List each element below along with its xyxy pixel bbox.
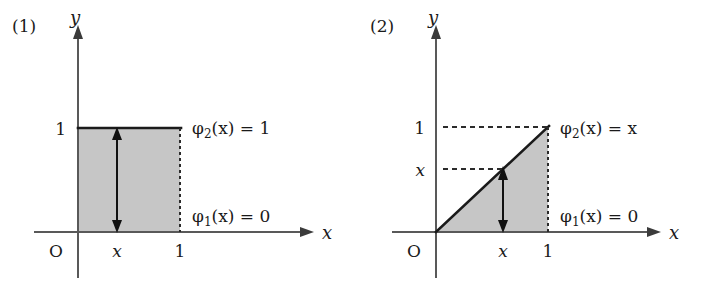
panel-2-lower-curve-label: φ1(x) = 0: [560, 206, 638, 229]
panel-2-lower-phi: φ: [560, 206, 572, 226]
panel-2-upper-phi-subscript: 2: [572, 127, 580, 141]
panel-1-origin-label: O: [49, 241, 63, 261]
panel-1-x-axis-label: x: [322, 222, 332, 243]
panel-1-y-axis-label: y: [69, 7, 81, 28]
panel-2-x-axis-label: x: [669, 222, 679, 243]
panel-1-x-tick-1: 1: [175, 241, 186, 261]
panel-1-y-tick-1: 1: [55, 119, 66, 139]
panel-1-lower-phi-subscript: 1: [204, 215, 212, 229]
panel-1-upper-curve-label: φ2(x) = 1: [192, 118, 270, 141]
panel-2-upper-phi-rest: (x) = x: [580, 118, 638, 138]
panel-2: (2) y x O 1 x x 1 φ2(x) = x φ1(x) = 0: [370, 7, 679, 278]
panel-2-y-tick-1: 1: [414, 118, 425, 138]
panel-1-x-axis-arrowhead: [300, 227, 314, 237]
panel-1-upper-phi-subscript: 2: [204, 127, 212, 141]
panel-1-upper-phi: φ: [192, 118, 204, 138]
panel-2-origin-label: O: [407, 241, 421, 261]
panel-2-lower-phi-subscript: 1: [572, 215, 580, 229]
two-panel-region-diagram: (1) y x O 1 x 1 φ2(x) = 1 φ1(x) = 0: [0, 0, 708, 289]
panel-2-lower-phi-rest: (x) = 0: [580, 206, 639, 226]
panel-2-tag: (2): [370, 16, 394, 36]
panel-1-upper-phi-rest: (x) = 1: [212, 118, 271, 138]
panel-1-shaded-region: [78, 128, 180, 232]
panel-2-x-tick-1: 1: [543, 241, 554, 261]
panel-2-upper-phi: φ: [560, 118, 572, 138]
panel-2-y-axis-label: y: [427, 7, 439, 28]
panel-2-upper-curve-label: φ2(x) = x: [560, 118, 637, 141]
panel-1-lower-curve-label: φ1(x) = 0: [192, 206, 270, 229]
panel-1-x-tick-x: x: [112, 241, 122, 261]
panel-1-lower-phi: φ: [192, 206, 204, 226]
panel-2-x-tick-x: x: [498, 241, 508, 261]
panel-2-x-axis-arrowhead: [647, 227, 661, 237]
panel-1-tag: (1): [12, 16, 36, 36]
figure-root: (1) y x O 1 x 1 φ2(x) = 1 φ1(x) = 0: [0, 0, 708, 289]
panel-1: (1) y x O 1 x 1 φ2(x) = 1 φ1(x) = 0: [12, 7, 332, 278]
panel-1-lower-phi-rest: (x) = 0: [212, 206, 271, 226]
panel-2-y-tick-x: x: [415, 160, 425, 180]
